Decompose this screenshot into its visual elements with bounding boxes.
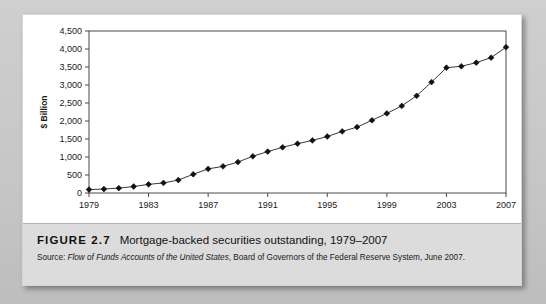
x-tick-label: 1995 xyxy=(317,200,337,210)
y-tick-label: 500 xyxy=(67,170,82,180)
y-tick-label: 2,500 xyxy=(59,98,82,108)
plot-area xyxy=(89,31,506,193)
y-tick-label: 2,000 xyxy=(59,116,82,126)
figure-title: Mortgage-backed securities outstanding, … xyxy=(120,234,388,246)
y-tick-label: 4,500 xyxy=(59,26,82,36)
figure-caption-block: FIGURE 2.7Mortgage-backed securities out… xyxy=(23,223,521,285)
figure-number: FIGURE 2.7 xyxy=(37,234,111,246)
source-rest: , Board of Governors of the Federal Rese… xyxy=(229,253,465,262)
x-tick-label: 1979 xyxy=(79,200,99,210)
y-tick-label: 0 xyxy=(77,188,82,198)
y-tick-label: 3,500 xyxy=(59,62,82,72)
page-background: 05001,0001,5002,0002,5003,0003,5004,0004… xyxy=(0,0,546,304)
chart-region: 05001,0001,5002,0002,5003,0003,5004,0004… xyxy=(23,15,521,223)
y-tick-label: 1,500 xyxy=(59,134,82,144)
y-tick-label: 4,000 xyxy=(59,44,82,54)
x-tick-label: 1991 xyxy=(258,200,278,210)
x-tick-label: 2007 xyxy=(496,200,516,210)
line-chart: 05001,0001,5002,0002,5003,0003,5004,0004… xyxy=(23,15,521,223)
figure-source: Source: Flow of Funds Accounts of the Un… xyxy=(37,253,492,264)
y-axis-label: $ Billion xyxy=(39,95,49,128)
figure-card: 05001,0001,5002,0002,5003,0003,5004,0004… xyxy=(22,14,522,286)
source-prefix: Source: xyxy=(37,253,68,262)
x-tick-label: 1987 xyxy=(198,200,218,210)
caption-line: FIGURE 2.7Mortgage-backed securities out… xyxy=(37,233,509,247)
y-tick-label: 1,000 xyxy=(59,152,82,162)
x-tick-label: 1983 xyxy=(139,200,159,210)
y-tick-label: 3,000 xyxy=(59,80,82,90)
source-publication: Flow of Funds Accounts of the United Sta… xyxy=(68,253,229,262)
x-tick-label: 2003 xyxy=(436,200,456,210)
x-tick-label: 1999 xyxy=(377,200,397,210)
